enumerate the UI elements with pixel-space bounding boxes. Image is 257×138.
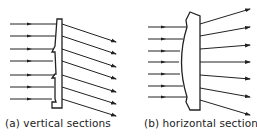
caption-horizontal-sections: (b) horizontal sections (144, 117, 257, 129)
outgoing-rays-a (62, 24, 116, 116)
caption-vertical-sections: (a) vertical sections (5, 117, 111, 129)
panel-a-vertical-sections (10, 19, 116, 116)
outgoing-rays-b (200, 9, 250, 115)
incoming-rays-a (10, 23, 57, 101)
arrowheads-b (161, 26, 166, 99)
stepped-lens-a (52, 19, 62, 108)
panel-b-horizontal-sections (148, 9, 250, 115)
